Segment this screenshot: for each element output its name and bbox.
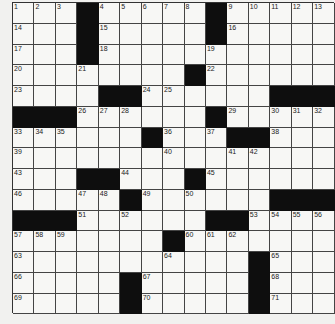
answer-square[interactable] xyxy=(34,45,55,66)
answer-square[interactable]: 32 xyxy=(313,107,334,128)
answer-square[interactable] xyxy=(120,24,141,45)
answer-square[interactable] xyxy=(206,294,227,315)
answer-square[interactable] xyxy=(99,148,120,169)
answer-square[interactable]: 14 xyxy=(13,24,34,45)
answer-square[interactable] xyxy=(99,65,120,86)
answer-square[interactable] xyxy=(270,65,291,86)
answer-square[interactable] xyxy=(120,45,141,66)
answer-square[interactable] xyxy=(292,24,313,45)
answer-square[interactable] xyxy=(120,231,141,252)
answer-square[interactable]: 63 xyxy=(13,252,34,273)
answer-square[interactable]: 13 xyxy=(313,3,334,24)
answer-square[interactable] xyxy=(292,273,313,294)
answer-square[interactable] xyxy=(249,190,270,211)
answer-square[interactable] xyxy=(99,273,120,294)
answer-square[interactable]: 55 xyxy=(292,211,313,232)
answer-square[interactable] xyxy=(206,148,227,169)
answer-square[interactable] xyxy=(34,86,55,107)
answer-square[interactable]: 8 xyxy=(185,3,206,24)
answer-square[interactable] xyxy=(206,86,227,107)
answer-square[interactable] xyxy=(163,294,184,315)
answer-square[interactable] xyxy=(77,252,98,273)
answer-square[interactable]: 48 xyxy=(99,190,120,211)
answer-square[interactable] xyxy=(249,107,270,128)
answer-square[interactable] xyxy=(56,190,77,211)
answer-square[interactable] xyxy=(185,24,206,45)
answer-square[interactable]: 64 xyxy=(163,252,184,273)
answer-square[interactable] xyxy=(249,86,270,107)
answer-square[interactable] xyxy=(56,24,77,45)
answer-square[interactable]: 57 xyxy=(13,231,34,252)
answer-square[interactable] xyxy=(142,148,163,169)
answer-square[interactable] xyxy=(185,45,206,66)
answer-square[interactable] xyxy=(313,45,334,66)
answer-square[interactable] xyxy=(227,86,248,107)
answer-square[interactable] xyxy=(163,45,184,66)
answer-square[interactable]: 50 xyxy=(185,190,206,211)
answer-square[interactable] xyxy=(249,24,270,45)
answer-square[interactable] xyxy=(163,190,184,211)
answer-square[interactable] xyxy=(292,128,313,149)
answer-square[interactable] xyxy=(56,169,77,190)
answer-square[interactable] xyxy=(227,252,248,273)
answer-square[interactable]: 34 xyxy=(34,128,55,149)
answer-square[interactable]: 1 xyxy=(13,3,34,24)
answer-square[interactable] xyxy=(270,169,291,190)
answer-square[interactable] xyxy=(163,211,184,232)
answer-square[interactable]: 26 xyxy=(77,107,98,128)
answer-square[interactable] xyxy=(185,211,206,232)
answer-square[interactable]: 30 xyxy=(270,107,291,128)
answer-square[interactable] xyxy=(292,45,313,66)
answer-square[interactable] xyxy=(99,231,120,252)
answer-square[interactable]: 25 xyxy=(163,86,184,107)
answer-square[interactable] xyxy=(270,24,291,45)
answer-square[interactable] xyxy=(142,107,163,128)
answer-square[interactable]: 66 xyxy=(13,273,34,294)
answer-square[interactable] xyxy=(313,231,334,252)
answer-square[interactable]: 10 xyxy=(249,3,270,24)
answer-square[interactable] xyxy=(120,128,141,149)
answer-square[interactable]: 38 xyxy=(270,128,291,149)
answer-square[interactable] xyxy=(313,252,334,273)
answer-square[interactable]: 31 xyxy=(292,107,313,128)
answer-square[interactable]: 19 xyxy=(206,45,227,66)
answer-square[interactable] xyxy=(142,45,163,66)
answer-square[interactable]: 47 xyxy=(77,190,98,211)
answer-square[interactable] xyxy=(185,294,206,315)
answer-square[interactable] xyxy=(206,252,227,273)
answer-square[interactable] xyxy=(206,190,227,211)
answer-square[interactable]: 43 xyxy=(13,169,34,190)
answer-square[interactable] xyxy=(34,273,55,294)
answer-square[interactable]: 11 xyxy=(270,3,291,24)
answer-square[interactable] xyxy=(34,65,55,86)
answer-square[interactable] xyxy=(163,107,184,128)
answer-square[interactable] xyxy=(206,273,227,294)
answer-square[interactable] xyxy=(77,294,98,315)
answer-square[interactable] xyxy=(249,169,270,190)
answer-square[interactable] xyxy=(185,128,206,149)
answer-square[interactable] xyxy=(56,252,77,273)
answer-square[interactable]: 33 xyxy=(13,128,34,149)
answer-square[interactable]: 52 xyxy=(120,211,141,232)
answer-square[interactable]: 17 xyxy=(13,45,34,66)
answer-square[interactable] xyxy=(142,24,163,45)
answer-square[interactable] xyxy=(270,45,291,66)
answer-square[interactable] xyxy=(292,148,313,169)
answer-square[interactable] xyxy=(99,128,120,149)
answer-square[interactable] xyxy=(120,65,141,86)
answer-square[interactable] xyxy=(292,169,313,190)
answer-square[interactable]: 67 xyxy=(142,273,163,294)
answer-square[interactable] xyxy=(185,86,206,107)
answer-square[interactable]: 45 xyxy=(206,169,227,190)
answer-square[interactable] xyxy=(227,190,248,211)
answer-square[interactable] xyxy=(227,273,248,294)
answer-square[interactable]: 9 xyxy=(227,3,248,24)
answer-square[interactable] xyxy=(34,169,55,190)
answer-square[interactable] xyxy=(227,65,248,86)
answer-square[interactable]: 12 xyxy=(292,3,313,24)
answer-square[interactable]: 3 xyxy=(56,3,77,24)
answer-square[interactable]: 36 xyxy=(163,128,184,149)
answer-square[interactable] xyxy=(142,252,163,273)
answer-square[interactable] xyxy=(56,148,77,169)
answer-square[interactable]: 71 xyxy=(270,294,291,315)
